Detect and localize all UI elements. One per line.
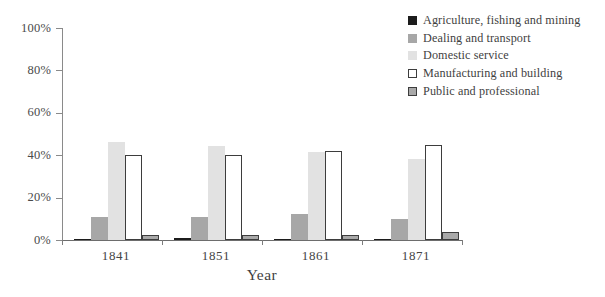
x-axis-title: Year (247, 266, 278, 284)
bar (174, 238, 191, 240)
x-axis-tick (62, 240, 63, 245)
plot-area: 0%20%40%60%80%100% (62, 28, 462, 240)
legend-swatch-icon (408, 16, 417, 25)
x-axis-tick (262, 240, 263, 245)
y-axis-tick: 40% (56, 155, 62, 156)
bar (242, 235, 259, 240)
bar (125, 155, 142, 240)
y-axis-line (62, 28, 63, 240)
bar (208, 146, 225, 240)
x-axis-label: 1861 (302, 248, 330, 264)
x-axis-label: 1851 (202, 248, 230, 264)
bar-group (74, 28, 159, 240)
bar-group (174, 28, 259, 240)
x-axis-tick (362, 240, 363, 245)
bar (342, 235, 359, 240)
bar (91, 217, 108, 240)
y-axis-tick: 100% (56, 28, 62, 29)
bar (374, 239, 391, 240)
bar (191, 217, 208, 240)
bar (274, 239, 291, 240)
x-axis-tick (462, 240, 463, 245)
bar (442, 232, 459, 240)
bar (291, 214, 308, 241)
y-axis-tick-label: 60% (27, 105, 51, 120)
y-axis-tick-label: 20% (27, 190, 51, 205)
bar-group (374, 28, 459, 240)
legend-item-agriculture-fishing-and-mining: Agriculture, fishing and mining (408, 12, 603, 30)
bar (225, 155, 242, 240)
bar (391, 219, 408, 240)
y-axis-tick-label: 100% (21, 21, 51, 36)
bar (408, 159, 425, 240)
bar-group (274, 28, 359, 240)
y-axis-tick: 20% (56, 198, 62, 199)
y-axis-tick: 60% (56, 113, 62, 114)
bar (425, 145, 442, 240)
bar (325, 151, 342, 240)
y-axis-tick-label: 80% (27, 63, 51, 78)
y-axis-tick-label: 0% (34, 233, 51, 248)
bar (142, 235, 159, 240)
x-axis-label: 1871 (402, 248, 430, 264)
bar (108, 142, 125, 240)
y-axis-tick: 80% (56, 70, 62, 71)
x-axis-tick (162, 240, 163, 245)
y-axis-tick-label: 40% (27, 148, 51, 163)
x-axis-label: 1841 (102, 248, 130, 264)
bar (74, 239, 91, 240)
bar-chart: Agriculture, fishing and mining Dealing … (0, 0, 605, 297)
bar (308, 152, 325, 240)
legend-item-label: Agriculture, fishing and mining (423, 13, 580, 28)
